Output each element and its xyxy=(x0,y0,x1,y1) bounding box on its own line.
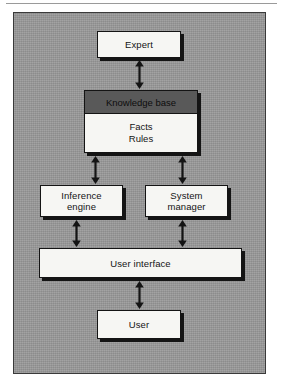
node-user-interface[interactable]: User interface xyxy=(39,248,242,278)
arrow-system-manager-user-interface xyxy=(177,220,188,247)
node-expert-label: Expert xyxy=(125,39,153,50)
arrow-expert-knowledge-base xyxy=(134,60,145,89)
page-top-rule xyxy=(6,3,277,4)
diagram-panel: Expert Knowledge base Facts Rules xyxy=(13,12,266,374)
node-user-interface-label: User interface xyxy=(110,258,171,269)
knowledge-base-header-label: Knowledge base xyxy=(106,97,176,108)
arrow-knowledge-base-inference-engine xyxy=(90,156,101,184)
node-system-manager-label-line2: manager xyxy=(167,201,205,212)
node-user-label: User xyxy=(129,319,149,330)
node-knowledge-base[interactable]: Knowledge base Facts Rules xyxy=(84,90,198,153)
knowledge-base-body: Facts Rules xyxy=(85,114,197,152)
node-inference-engine-label-line1: Inference xyxy=(61,190,102,201)
node-system-manager-label-line1: System xyxy=(170,190,202,201)
node-expert[interactable]: Expert xyxy=(97,31,181,58)
arrow-knowledge-base-system-manager xyxy=(177,156,188,184)
knowledge-base-facts-label: Facts xyxy=(129,121,152,133)
knowledge-base-header: Knowledge base xyxy=(85,91,197,114)
arrow-inference-engine-user-interface xyxy=(71,220,82,247)
node-inference-engine[interactable]: Inference engine xyxy=(40,185,123,217)
arrow-user-interface-user xyxy=(134,281,145,309)
node-system-manager[interactable]: System manager xyxy=(145,185,228,217)
node-inference-engine-label-line2: engine xyxy=(67,201,96,212)
knowledge-base-rules-label: Rules xyxy=(129,133,153,145)
node-user[interactable]: User xyxy=(97,310,181,339)
